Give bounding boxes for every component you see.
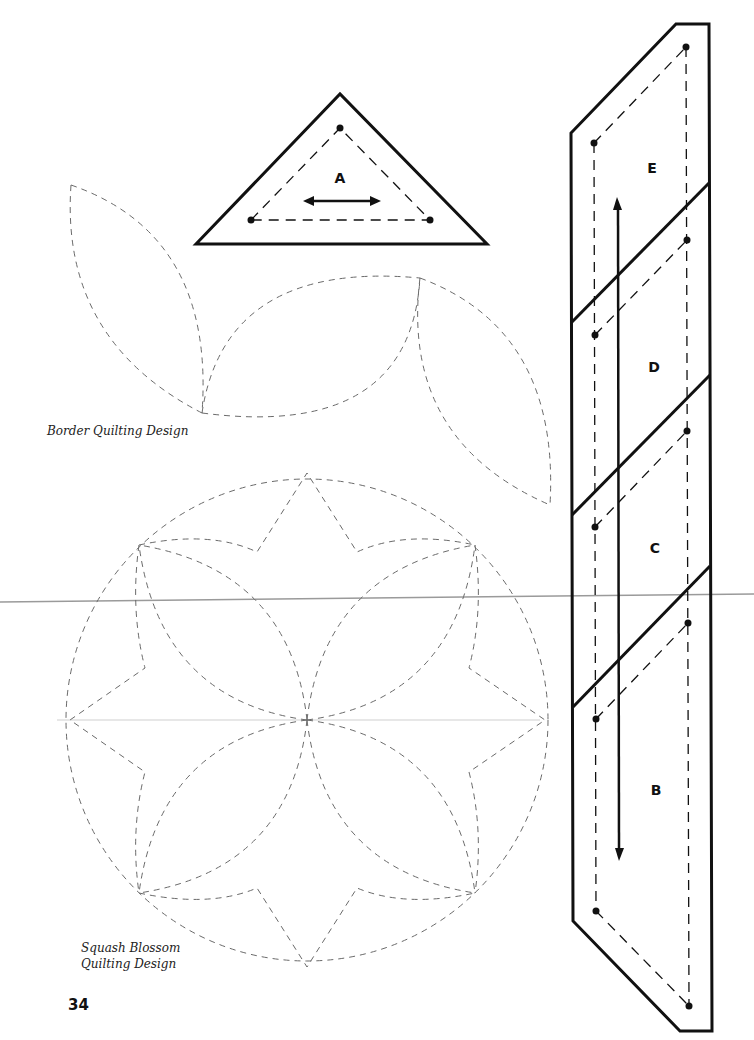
squash-caption-line2: Quilting Design bbox=[81, 957, 176, 972]
squash-caption-line1: Squash Blossom bbox=[81, 941, 180, 956]
template-a-label: A bbox=[335, 170, 346, 186]
border-design-caption: Border Quilting Design bbox=[47, 424, 188, 439]
pattern-page: A E D C B Border Quilting Design Squash … bbox=[0, 0, 754, 1040]
grain-arrow-icon bbox=[613, 197, 624, 861]
border-quilting-design bbox=[70, 185, 550, 505]
template-b-label: B bbox=[651, 782, 662, 798]
page-number: 34 bbox=[68, 996, 89, 1014]
fold-guide-line bbox=[0, 594, 754, 602]
template-a-triangle bbox=[196, 94, 487, 244]
pattern-drawing bbox=[0, 0, 754, 1040]
template-d-label: D bbox=[648, 359, 660, 375]
template-c-label: C bbox=[650, 540, 660, 556]
grain-arrow-icon bbox=[303, 196, 381, 206]
template-e-label: E bbox=[647, 160, 657, 176]
template-strip-b-to-e bbox=[571, 24, 712, 1031]
